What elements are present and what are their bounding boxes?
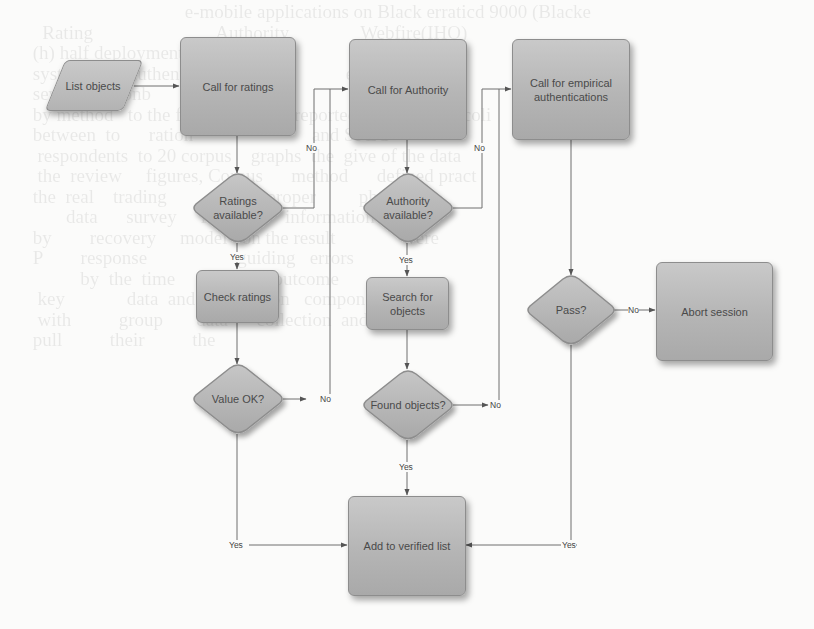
edge-label-no: No xyxy=(628,305,639,315)
call-for-authority-node[interactable]: Call for Authority xyxy=(349,39,467,140)
node-label: Check ratings xyxy=(204,290,271,304)
check-ratings-node[interactable]: Check ratings xyxy=(196,270,279,323)
add-to-verified-list-node[interactable]: Add to verified list xyxy=(348,496,466,596)
edge-label-yes: Yes xyxy=(562,540,576,550)
node-label: Call for empirical authentications xyxy=(521,76,621,104)
abort-session-node[interactable]: Abort session xyxy=(656,262,773,361)
search-for-objects-node[interactable]: Search for objects xyxy=(366,277,449,330)
call-for-empirical-node[interactable]: Call for empirical authentications xyxy=(512,39,630,140)
edge-label-yes: Yes xyxy=(229,540,243,550)
node-label: Value OK? xyxy=(192,364,284,434)
pass-node[interactable]: Pass? xyxy=(526,275,616,345)
edge-label-no: No xyxy=(474,143,485,153)
node-label: Pass? xyxy=(526,275,616,345)
edge-label-yes: Yes xyxy=(399,255,413,265)
found-objects-node[interactable]: Found objects? xyxy=(362,370,454,440)
node-label: Ratings available? xyxy=(192,173,284,243)
node-label: Call for ratings xyxy=(203,80,274,94)
node-label: Found objects? xyxy=(362,370,454,440)
node-label: Call for Authority xyxy=(368,83,449,97)
edge-label-no: No xyxy=(490,400,501,410)
node-label: Abort session xyxy=(681,305,748,319)
node-label: List objects xyxy=(45,60,141,111)
edge-label-yes: Yes xyxy=(230,252,244,262)
call-for-ratings-node[interactable]: Call for ratings xyxy=(180,37,296,136)
list-objects-node[interactable]: List objects xyxy=(45,60,141,111)
ratings-available-node[interactable]: Ratings available? xyxy=(192,173,284,243)
node-label: Add to verified list xyxy=(364,539,451,553)
edge-label-no: No xyxy=(320,394,331,404)
edge-label-yes: Yes xyxy=(399,462,413,472)
edge-label-no: No xyxy=(306,143,317,153)
node-label: Search for objects xyxy=(381,290,434,318)
value-ok-node[interactable]: Value OK? xyxy=(192,364,284,434)
authority-available-node[interactable]: Authority available? xyxy=(362,173,454,243)
node-label: Authority available? xyxy=(362,173,454,243)
